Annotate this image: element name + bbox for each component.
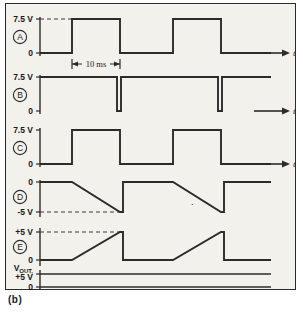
channel-c-badge-label: C bbox=[17, 143, 23, 153]
channel-c-waveform bbox=[40, 130, 271, 164]
period-annotation: 10 ms bbox=[72, 58, 120, 70]
channel-a-time-arrowhead bbox=[282, 49, 290, 56]
channel-vout-bottom-label: 0 bbox=[28, 282, 33, 291]
figure-caption: (b) bbox=[8, 294, 22, 305]
channel-vout-value-label: +5 V bbox=[15, 272, 33, 282]
channel-a-waveform bbox=[40, 19, 271, 53]
channel-a-badge-label: A bbox=[17, 32, 23, 42]
channel-vout-group: VOUT, +5 V 0 bbox=[14, 263, 271, 291]
channel-b-group: t 7.5 V 0 B bbox=[13, 72, 296, 116]
timing-diagram: t 7.5 V 0 A 10 ms t 7.5 V bbox=[6, 4, 297, 291]
channel-e-group: +5 V 0 E bbox=[13, 227, 271, 266]
channel-d-top-label: 0 bbox=[28, 177, 33, 187]
period-arrowhead-right bbox=[114, 61, 120, 66]
channel-a-bottom-label: 0 bbox=[28, 48, 33, 58]
channel-a-time-label: t bbox=[293, 48, 296, 58]
channel-b-bottom-label: 0 bbox=[28, 106, 33, 116]
period-arrowhead-left bbox=[72, 61, 78, 66]
stray-dot-marker: . bbox=[191, 197, 194, 207]
channel-b-top-label: 7.5 V bbox=[13, 72, 33, 82]
channel-a-top-label: 7.5 V bbox=[13, 14, 33, 24]
figure-frame: t 7.5 V 0 A 10 ms t 7.5 V bbox=[5, 3, 296, 290]
channel-b-waveform bbox=[40, 77, 271, 111]
channel-b-time-arrowhead bbox=[282, 107, 290, 114]
channel-e-badge-label: E bbox=[17, 242, 23, 252]
channel-c-group: t 7.5 V 0 C bbox=[13, 125, 296, 169]
channel-c-time-label: t bbox=[293, 159, 296, 169]
channel-c-bottom-label: 0 bbox=[28, 159, 33, 169]
channel-d-bottom-label: -5 V bbox=[17, 207, 33, 217]
channel-b-time-label: t bbox=[293, 106, 296, 116]
channel-e-waveform bbox=[40, 232, 271, 260]
channel-d-badge-label: D bbox=[17, 192, 23, 202]
channel-d-waveform bbox=[40, 182, 271, 212]
channel-e-top-label: +5 V bbox=[15, 227, 33, 237]
period-label: 10 ms bbox=[86, 59, 107, 69]
channel-b-badge-label: B bbox=[17, 90, 23, 100]
channel-c-top-label: 7.5 V bbox=[13, 125, 33, 135]
channel-e-bottom-label: 0 bbox=[28, 255, 33, 265]
channel-c-time-arrowhead bbox=[282, 160, 290, 167]
channel-d-group: 0 -5 V D . bbox=[13, 177, 271, 217]
channel-a-group: t 7.5 V 0 A bbox=[13, 14, 296, 58]
